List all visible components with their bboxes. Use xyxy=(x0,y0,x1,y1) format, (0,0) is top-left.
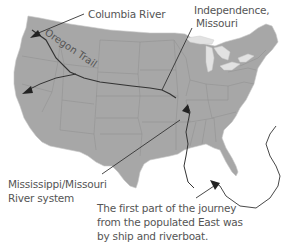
arrowhead-sea xyxy=(210,180,220,190)
independence-label-line2: Missouri xyxy=(196,17,238,30)
journey-label-line1: The first part of the journey xyxy=(97,202,236,215)
journey-label-line3: by ship and riverboat. xyxy=(97,230,208,243)
columbia-river-label: Columbia River xyxy=(88,8,165,21)
journey-label-line2: from the populated East was xyxy=(97,216,243,229)
sea-pointer xyxy=(196,186,214,198)
mississippi-label-line2: River system xyxy=(8,192,74,205)
sea-route xyxy=(214,126,280,208)
independence-label-line1: Independence, xyxy=(194,4,269,17)
mississippi-label-line1: Mississippi/Missouri xyxy=(8,178,107,191)
